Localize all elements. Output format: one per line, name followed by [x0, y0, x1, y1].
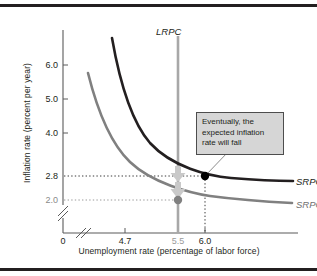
- y-axis-tick-label-2-0: 2.0: [28, 195, 58, 205]
- y-axis-tick-label-5-0: 5.0: [28, 94, 58, 104]
- lrpc-curve-label: LRPC: [156, 26, 181, 37]
- srpc1-curve-label: SRPC1: [296, 199, 317, 212]
- point-srpc0: [201, 172, 209, 180]
- callout-leader-line: [205, 152, 228, 176]
- x-axis-tick-label-4-7: 4.7: [110, 236, 140, 246]
- callout-line-1: Eventually, the: [202, 117, 278, 128]
- srpc1-label-text: SRPC: [296, 199, 317, 210]
- x-axis-tick-label-6-0: 6.0: [190, 236, 220, 246]
- callout-line-3: rate will fall: [202, 138, 278, 149]
- x-axis-tick-label-5-5: 5.5: [163, 236, 193, 246]
- srpc0-label-text: SRPC: [296, 176, 317, 187]
- point-srpc1: [174, 196, 182, 204]
- y-axis-tick-label-2-8: 2.8: [28, 171, 58, 181]
- y-axis-break-mark-1: [58, 206, 68, 216]
- x-axis-tick-label-0: 0: [48, 236, 78, 246]
- x-axis-title: Unemployment rate (percentage of labor f…: [38, 246, 300, 256]
- curve-srpc0: [112, 38, 293, 181]
- figure-container: Inflation rate (percent per year) Unempl…: [0, 0, 317, 276]
- y-axis-tick-label-4-0: 4.0: [28, 128, 58, 138]
- srpc0-curve-label: SRPC0: [296, 176, 317, 189]
- callout-line-2: expected inflation: [202, 128, 278, 139]
- expected-inflation-note: Eventually, the expected inflation rate …: [196, 112, 284, 155]
- downward-adjustment-arrow-1: [171, 166, 186, 182]
- y-axis-tick-label-6-0: 6.0: [28, 60, 58, 70]
